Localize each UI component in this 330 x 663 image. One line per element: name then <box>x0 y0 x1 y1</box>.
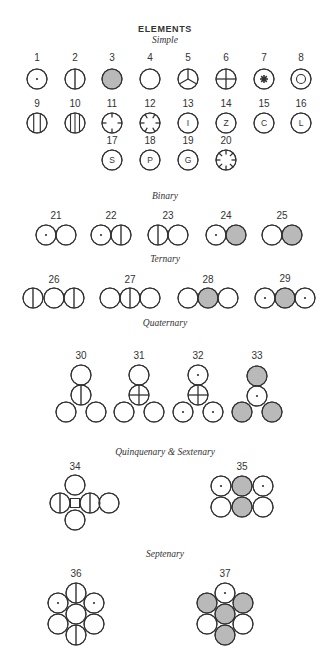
element-19: 19G <box>178 135 198 170</box>
element-number: 8 <box>298 52 304 63</box>
dot-mark-icon <box>182 411 184 413</box>
elements-diagram: ELEMENTS SimpleBinaryTernaryQuaternaryQu… <box>0 0 330 663</box>
dot-mark-icon <box>93 602 95 604</box>
element-26: 26 <box>23 274 84 308</box>
element-number: 37 <box>219 568 231 579</box>
element-6: 6 <box>216 52 236 89</box>
element-number: 5 <box>185 52 191 63</box>
element-21: 21 <box>36 210 76 245</box>
element-letter: I <box>187 118 189 128</box>
element-number: 29 <box>279 273 291 284</box>
element-number: 33 <box>251 350 263 361</box>
letter-mark-icon: G <box>185 155 192 165</box>
element-27: 27 <box>100 274 160 308</box>
element-31: 31 <box>114 350 164 422</box>
element-number: 31 <box>133 350 145 361</box>
element-number: 36 <box>70 568 82 579</box>
dot-mark-icon <box>264 297 266 299</box>
element-17: 17S <box>102 135 122 170</box>
element-number: 4 <box>147 52 153 63</box>
element-11: 11 <box>102 98 122 133</box>
element-2: 2 <box>65 52 85 89</box>
diagram-title: ELEMENTS <box>138 24 192 34</box>
letter-mark-icon: Z <box>223 118 228 128</box>
element-32: 32 <box>173 350 223 422</box>
dot-mark-icon <box>256 395 258 397</box>
element-number: 23 <box>162 210 174 221</box>
element-4: 4 <box>140 52 160 89</box>
element-34: 34 <box>50 461 119 530</box>
element-12: 12 <box>140 98 160 133</box>
dot-mark-icon <box>224 592 226 594</box>
element-number: 9 <box>34 98 40 109</box>
element-number: 35 <box>236 461 248 472</box>
element-letter: P <box>147 155 153 165</box>
element-number: 2 <box>72 52 78 63</box>
element-36: 36 <box>48 568 104 645</box>
element-29: 29 <box>255 273 315 308</box>
element-15: 15C <box>254 98 274 133</box>
element-number: 10 <box>69 98 81 109</box>
element-35: 35 <box>211 461 273 517</box>
dot-mark-icon <box>57 602 59 604</box>
section-label: Quinquenary & Sextenary <box>115 447 216 457</box>
letter-mark-icon: S <box>109 155 115 165</box>
element-number: 30 <box>75 350 87 361</box>
element-33: 33 <box>232 350 282 422</box>
element-13: 13I <box>178 98 198 133</box>
element-28: 28 <box>178 274 238 308</box>
element-16: 16L <box>291 98 311 133</box>
section-label: Simple <box>152 35 178 45</box>
element-number: 3 <box>109 52 115 63</box>
element-8: 8 <box>291 52 311 89</box>
element-number: 20 <box>220 135 232 146</box>
letter-mark-icon: C <box>261 118 267 128</box>
element-7: 7 <box>254 52 274 89</box>
element-number: 7 <box>261 52 267 63</box>
element-number: 16 <box>295 98 307 109</box>
element-letter: L <box>299 118 304 128</box>
center-gap-icon <box>71 499 80 508</box>
dot-mark-icon <box>36 78 38 80</box>
element-37: 37 <box>197 568 253 645</box>
element-letter: Z <box>223 118 228 128</box>
dot-mark-icon <box>262 485 264 487</box>
section-label: Quaternary <box>143 318 188 328</box>
element-number: 17 <box>106 135 118 146</box>
element-number: 24 <box>220 210 232 221</box>
element-23: 23 <box>148 210 188 245</box>
element-number: 11 <box>107 98 118 109</box>
element-number: 21 <box>50 210 62 221</box>
letter-mark-icon: I <box>187 118 189 128</box>
element-9: 9 <box>27 98 47 133</box>
element-number: 15 <box>258 98 270 109</box>
dot-mark-icon <box>100 234 102 236</box>
dot-mark-icon <box>215 234 217 236</box>
element-number: 26 <box>48 274 60 285</box>
dot-mark-icon <box>212 411 214 413</box>
element-number: 14 <box>220 98 232 109</box>
dot-mark-icon <box>220 485 222 487</box>
element-letter: G <box>185 155 192 165</box>
element-number: 6 <box>223 52 229 63</box>
element-number: 19 <box>182 135 194 146</box>
element-25: 25 <box>262 210 302 245</box>
dot-mark-icon <box>304 297 306 299</box>
element-number: 22 <box>105 210 117 221</box>
element-number: 18 <box>144 135 156 146</box>
element-20: 20 <box>216 135 236 170</box>
element-number: 1 <box>34 52 40 63</box>
element-number: 34 <box>69 461 81 472</box>
element-22: 22 <box>91 210 131 245</box>
section-label: Ternary <box>150 254 181 264</box>
element-number: 13 <box>182 98 194 109</box>
element-number: 28 <box>202 274 214 285</box>
section-label: Septenary <box>146 549 185 559</box>
element-14: 14Z <box>216 98 236 133</box>
element-18: 18P <box>140 135 160 170</box>
element-1: 1 <box>27 52 47 89</box>
element-number: 25 <box>276 210 288 221</box>
dot-mark-icon <box>45 234 47 236</box>
letter-mark-icon: L <box>299 118 304 128</box>
element-number: 32 <box>192 350 204 361</box>
